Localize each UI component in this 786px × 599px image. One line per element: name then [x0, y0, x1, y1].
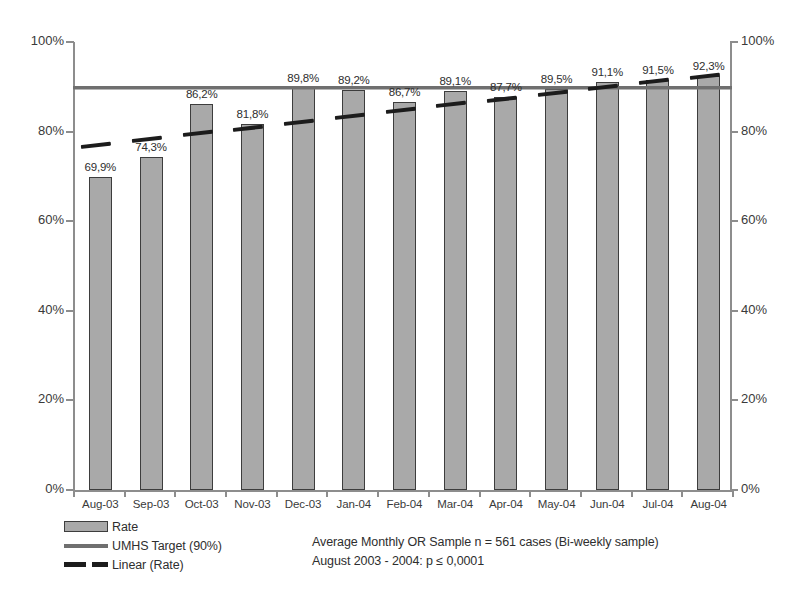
y-axis-label-right: 60% — [741, 212, 786, 227]
x-axis-label: Oct-03 — [185, 498, 219, 510]
bar — [241, 124, 264, 490]
bar — [89, 177, 112, 490]
bar — [444, 91, 467, 490]
bar — [140, 157, 163, 490]
bar-value-label: 69,9% — [85, 161, 117, 173]
x-tick — [225, 490, 227, 497]
bar-value-label: 81,8% — [237, 108, 269, 120]
x-axis-line — [73, 490, 732, 492]
scan-top-cut-text — [40, 0, 600, 10]
x-tick — [428, 490, 430, 497]
y-tick-left — [66, 399, 74, 401]
annotation-line-2: August 2003 - 2004: p ≤ 0,0001 — [312, 552, 659, 571]
bar-value-label: 86,2% — [186, 88, 218, 100]
x-axis-label: Jul-04 — [643, 498, 674, 510]
chart-page: 100%80%60%40%20%0% 100%80%60%40%20%0% 69… — [0, 0, 786, 599]
x-tick — [732, 490, 734, 497]
rate-swatch-icon — [64, 521, 108, 532]
trend-dash-segment — [81, 142, 111, 149]
y-axis-label-left: 60% — [16, 212, 64, 227]
x-tick — [124, 490, 126, 497]
x-axis-label: Jun-04 — [590, 498, 625, 510]
bar — [494, 97, 517, 490]
bar — [545, 89, 568, 490]
bar-value-label: 86,7% — [389, 86, 421, 98]
y-tick-right — [730, 131, 738, 133]
x-tick — [479, 490, 481, 497]
x-axis-label: Aug-03 — [82, 498, 118, 510]
y-tick-left — [66, 310, 74, 312]
x-axis-label: Apr-04 — [489, 498, 523, 510]
y-axis-label-right: 20% — [741, 391, 786, 406]
x-tick — [681, 490, 683, 497]
x-axis-label: Aug-04 — [690, 498, 726, 510]
y-axis-left-line — [73, 42, 75, 492]
bar — [697, 76, 720, 490]
x-axis-label: Dec-03 — [285, 498, 321, 510]
x-axis-label: May-04 — [538, 498, 576, 510]
x-tick — [580, 490, 582, 497]
y-axis-label-left: 100% — [16, 33, 64, 48]
x-tick — [631, 490, 633, 497]
y-axis-label-left: 40% — [16, 302, 64, 317]
legend-label-umhs-target: UMHS Target (90%) — [112, 539, 222, 553]
y-axis-label-left: 80% — [16, 123, 64, 138]
legend-label-linear-rate: Linear (Rate) — [112, 558, 184, 572]
y-axis-label-right: 40% — [741, 302, 786, 317]
x-tick — [326, 490, 328, 497]
solid-line-swatch-icon — [64, 540, 108, 551]
bar — [646, 80, 669, 490]
dashed-line-swatch-icon — [64, 559, 108, 570]
x-axis-label: Mar-04 — [437, 498, 473, 510]
y-axis-label-right: 80% — [741, 123, 786, 138]
legend-label-rate: Rate — [112, 520, 138, 534]
y-tick-right — [730, 310, 738, 312]
x-tick — [529, 490, 531, 497]
y-tick-right — [730, 399, 738, 401]
chart-annotation: Average Monthly OR Sample n = 561 cases … — [312, 533, 659, 571]
y-tick-left — [66, 220, 74, 222]
bar — [292, 88, 315, 490]
bar-value-label: 89,5% — [541, 73, 573, 85]
x-tick — [73, 490, 75, 497]
bar-value-label: 89,8% — [287, 72, 319, 84]
y-axis-label-right: 100% — [741, 33, 786, 48]
bar-value-label: 92,3% — [693, 60, 725, 72]
bar — [190, 104, 213, 490]
x-axis-label: Jan-04 — [337, 498, 372, 510]
y-tick-left — [66, 131, 74, 133]
bar-value-label: 89,2% — [338, 74, 370, 86]
plot-area: 100%80%60%40%20%0% 100%80%60%40%20%0% 69… — [73, 42, 732, 492]
y-tick-left — [66, 41, 74, 43]
y-axis-right-line — [730, 42, 732, 492]
bar-value-label: 89,1% — [439, 75, 471, 87]
y-axis-label-right: 0% — [741, 481, 786, 496]
y-tick-right — [730, 220, 738, 222]
bar-value-label: 91,5% — [642, 64, 674, 76]
bar — [342, 90, 365, 490]
x-tick — [377, 490, 379, 497]
bar — [393, 102, 416, 490]
x-axis-label: Feb-04 — [387, 498, 423, 510]
y-axis-label-left: 20% — [16, 391, 64, 406]
x-tick — [174, 490, 176, 497]
bar-value-label: 91,1% — [591, 66, 623, 78]
bar — [596, 82, 619, 490]
x-axis-label: Sep-03 — [133, 498, 169, 510]
x-axis-label: Nov-03 — [234, 498, 270, 510]
annotation-line-1: Average Monthly OR Sample n = 561 cases … — [312, 533, 659, 552]
bar-value-label: 74,3% — [135, 141, 167, 153]
x-tick — [276, 490, 278, 497]
y-axis-label-left: 0% — [16, 481, 64, 496]
bar-value-label: 87,7% — [490, 81, 522, 93]
y-tick-right — [730, 41, 738, 43]
